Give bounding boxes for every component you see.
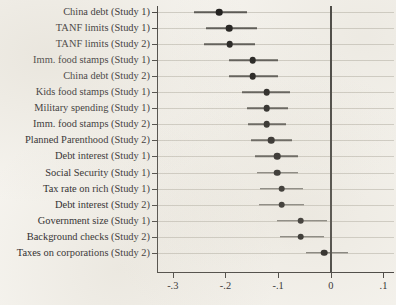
category-label-2: TANF limits (Study 2) [56, 39, 150, 49]
gridline [157, 237, 394, 238]
data-point-7 [263, 121, 270, 128]
category-label-4: China debt (Study 2) [63, 71, 150, 81]
category-label-10: Social Security (Study 1) [45, 167, 150, 177]
x-axis-tick-2 [278, 273, 279, 278]
data-point-1 [226, 25, 233, 32]
x-axis-tick-label-0: -.3 [167, 281, 178, 291]
x-axis-tick-4 [383, 273, 384, 278]
category-label-9: Debt interest (Study 1) [55, 151, 150, 161]
data-point-2 [226, 41, 233, 48]
gridline [157, 253, 394, 254]
x-axis-tick-label-1: -.2 [220, 281, 231, 291]
data-point-6 [263, 105, 270, 112]
gridline [157, 12, 394, 13]
x-axis-line [157, 272, 394, 273]
gridline [157, 44, 394, 45]
category-label-1: TANF limits (Study 1) [56, 23, 150, 33]
category-label-14: Background checks (Study 2) [27, 231, 150, 241]
x-axis-tick-label-4: .1 [380, 281, 388, 291]
x-axis-tick-3 [331, 273, 332, 278]
category-label-8: Planned Parenthood (Study 2) [25, 135, 150, 145]
data-point-4 [250, 73, 257, 80]
y-axis-line [157, 6, 158, 272]
data-point-15 [321, 249, 328, 256]
category-label-11: Tax rate on rich (Study 1) [43, 183, 150, 193]
x-axis-tick-1 [225, 273, 226, 278]
data-point-14 [297, 233, 304, 240]
data-point-0 [216, 9, 223, 16]
zero-reference-line [330, 6, 332, 272]
data-point-3 [250, 57, 257, 64]
category-label-6: Military spending (Study 1) [34, 103, 150, 113]
data-point-5 [263, 89, 270, 96]
category-label-5: Kids food stamps (Study 1) [36, 87, 150, 97]
x-axis-tick-label-3: 0 [328, 281, 333, 291]
data-point-12 [279, 201, 286, 208]
category-label-3: Imm. food stamps (Study 1) [33, 55, 150, 65]
category-label-12: Debt interest (Study 2) [55, 199, 150, 209]
data-point-13 [297, 217, 304, 224]
coefficient-plot: China debt (Study 1)TANF limits (Study 1… [0, 0, 396, 305]
category-label-15: Taxes on corporations (Study 2) [17, 248, 150, 258]
data-point-9 [274, 153, 281, 160]
gridline [157, 28, 394, 29]
x-axis-tick-0 [173, 273, 174, 278]
x-axis-tick-label-2: -.1 [272, 281, 283, 291]
category-label-0: China debt (Study 1) [63, 7, 150, 17]
data-point-11 [279, 185, 286, 192]
gridline [157, 221, 394, 222]
category-label-7: Imm. food stamps (Study 2) [33, 119, 150, 129]
data-point-10 [274, 169, 281, 176]
category-label-13: Government size (Study 1) [38, 215, 150, 225]
data-point-8 [268, 137, 275, 144]
